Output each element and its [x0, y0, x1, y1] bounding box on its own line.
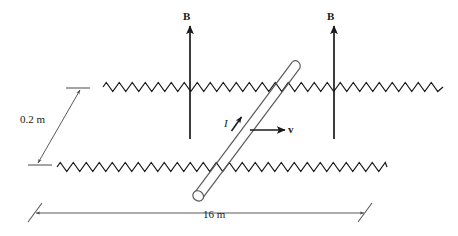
current-arrow — [232, 117, 242, 131]
rail-separation-label: 0.2 m — [20, 114, 45, 125]
sliding-rod — [191, 61, 300, 203]
magnetic-field-label-right: B — [327, 11, 335, 22]
rail-length-dimension — [28, 203, 372, 222]
magnetic-field-label-left: B — [183, 11, 191, 22]
diagram-canvas — [0, 0, 458, 236]
physics-diagram: B B I v 0.2 m 16 m — [0, 0, 458, 236]
current-label: I — [224, 118, 228, 129]
lower-rail — [57, 163, 387, 172]
rail-length-label: 16 m — [203, 209, 225, 220]
velocity-label: v — [288, 124, 294, 135]
rail-separation-dimension — [28, 88, 90, 165]
